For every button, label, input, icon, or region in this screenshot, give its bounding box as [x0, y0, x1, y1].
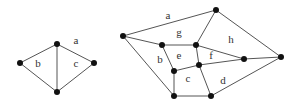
graph-edge — [174, 65, 199, 71]
graph-vertex — [171, 68, 177, 74]
graph-vertex — [54, 89, 60, 95]
graph-vertex — [91, 60, 97, 66]
graph-vertex — [54, 41, 60, 47]
face-label: f — [209, 49, 213, 61]
face-label: c — [186, 72, 191, 84]
planar-graphs-diagram: abcaghbefcd — [0, 0, 296, 107]
face-label: b — [157, 53, 163, 65]
graph-vertex — [120, 33, 126, 39]
graph-edge — [199, 65, 211, 96]
face-label: h — [228, 33, 234, 45]
face-label: c — [74, 57, 79, 69]
face-label: b — [35, 57, 41, 69]
face-label: a — [74, 34, 79, 46]
graph-edge — [244, 57, 281, 59]
face-label: g — [176, 26, 182, 38]
graph-edge — [216, 10, 281, 57]
graph-vertex — [208, 93, 214, 99]
graph-vertex — [278, 54, 284, 60]
graph-vertex — [213, 7, 219, 13]
graph-vertex — [17, 60, 23, 66]
graph-edge — [196, 45, 244, 59]
graph-vertex — [171, 93, 177, 99]
graph-edge — [162, 45, 174, 71]
graph-edges — [20, 10, 281, 96]
face-label: e — [177, 49, 182, 61]
graph-vertex — [159, 42, 165, 48]
face-label: d — [220, 74, 226, 86]
graph-edge — [196, 45, 199, 65]
graph-vertex — [241, 56, 247, 62]
graph-edge — [199, 59, 244, 65]
face-label: a — [166, 9, 171, 21]
graph-vertex — [196, 62, 202, 68]
graph-vertex — [193, 42, 199, 48]
